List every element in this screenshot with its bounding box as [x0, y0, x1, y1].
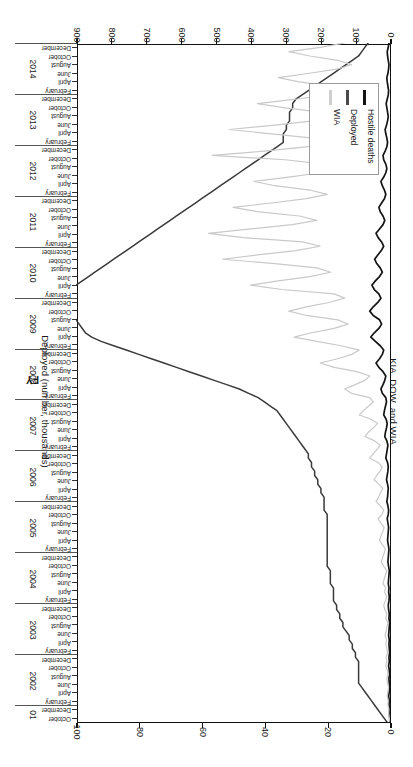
month-label: August	[51, 317, 71, 323]
month-tick	[72, 684, 77, 685]
month-label: June	[57, 274, 71, 280]
legend: Hostile deathsDeployedWIA	[309, 83, 379, 175]
month-label: February	[45, 546, 71, 552]
legend-swatch	[329, 90, 332, 105]
month-label: June	[57, 427, 71, 433]
month-label: August	[51, 673, 71, 679]
axis-tick-label: 500	[212, 27, 222, 42]
month-tick	[72, 506, 77, 507]
axis-tick-label: 0	[386, 32, 396, 37]
month-tick	[72, 446, 77, 447]
month-tick	[72, 675, 77, 676]
axis-tick	[390, 723, 391, 728]
month-tick	[72, 242, 77, 243]
month-tick	[72, 209, 77, 210]
month-tick	[72, 429, 77, 430]
month-tick	[72, 531, 77, 532]
year-separator	[15, 450, 77, 451]
year-separator	[15, 349, 77, 350]
month-tick	[72, 183, 77, 184]
fiscal-year-label: 2012	[28, 162, 38, 181]
axis-tick-label: 900	[72, 27, 82, 42]
month-label: April	[58, 435, 71, 441]
month-label: October	[48, 716, 71, 722]
year-separator	[15, 501, 77, 502]
month-tick	[72, 251, 77, 252]
month-label: February	[45, 444, 71, 450]
month-label: February	[45, 87, 71, 93]
month-tick	[72, 200, 77, 201]
month-label: April	[58, 385, 71, 391]
month-label: February	[45, 648, 71, 654]
axis-tick	[390, 39, 391, 44]
month-label: February	[45, 342, 71, 348]
month-tick	[72, 310, 77, 311]
month-label: October	[48, 665, 71, 671]
month-label: August	[51, 113, 71, 119]
month-label: December	[42, 45, 71, 51]
month-label: December	[42, 452, 71, 458]
month-label: June	[57, 478, 71, 484]
month-tick	[72, 90, 77, 91]
month-tick	[72, 540, 77, 541]
month-tick	[72, 404, 77, 405]
month-tick	[72, 192, 77, 193]
month-label: December	[42, 249, 71, 255]
month-tick	[72, 47, 77, 48]
month-label: August	[51, 571, 71, 577]
month-tick	[72, 56, 77, 57]
month-label: June	[57, 223, 71, 229]
year-separator	[15, 298, 77, 299]
month-label: October	[48, 257, 71, 263]
month-tick	[72, 327, 77, 328]
month-label: June	[57, 529, 71, 535]
month-tick	[72, 149, 77, 150]
month-tick	[72, 463, 77, 464]
fiscal-year-label: 2011	[28, 213, 38, 231]
month-label: October	[48, 206, 71, 212]
month-tick	[72, 353, 77, 354]
axis-tick-label: 40	[260, 727, 270, 737]
month-label: February	[45, 189, 71, 195]
legend-label: Hostile deaths	[367, 109, 377, 163]
month-label: December	[42, 707, 71, 713]
month-label: February	[45, 495, 71, 501]
month-label: April	[58, 130, 71, 136]
month-label: August	[51, 62, 71, 68]
month-tick	[72, 489, 77, 490]
month-tick	[72, 480, 77, 481]
month-tick	[72, 141, 77, 142]
month-label: June	[57, 682, 71, 688]
legend-swatch	[363, 90, 366, 105]
month-label: February	[45, 138, 71, 144]
month-label: August	[51, 164, 71, 170]
month-tick	[72, 259, 77, 260]
month-tick	[72, 548, 77, 549]
fiscal-year-label: 2010	[28, 264, 38, 283]
month-tick	[72, 378, 77, 379]
chart-stage: KIA, DOW, and WIA Deployed (number, thou…	[0, 0, 413, 767]
month-label: August	[51, 622, 71, 628]
month-label: December	[42, 351, 71, 357]
axis-tick-label: 20	[323, 727, 333, 737]
month-tick	[72, 514, 77, 515]
month-label: October	[48, 359, 71, 365]
month-label: October	[48, 614, 71, 620]
month-label: August	[51, 469, 71, 475]
year-separator	[15, 654, 77, 655]
month-label: August	[51, 215, 71, 221]
month-tick	[72, 64, 77, 65]
year-separator	[15, 705, 77, 706]
month-label: February	[45, 240, 71, 246]
month-tick	[72, 701, 77, 702]
month-tick	[72, 641, 77, 642]
fiscal-year-label: 01	[28, 710, 38, 720]
axis-tick-label: 100	[72, 724, 82, 739]
category-axis: OctoberDecemberFebruaryAprilJuneAugustOc…	[0, 44, 77, 723]
month-tick	[72, 225, 77, 226]
month-label: June	[57, 172, 71, 178]
axis-tick-label: 800	[107, 27, 117, 42]
axis-tick-label: 100	[351, 27, 361, 42]
month-tick	[72, 658, 77, 659]
fiscal-year-label: 2014	[28, 60, 38, 79]
